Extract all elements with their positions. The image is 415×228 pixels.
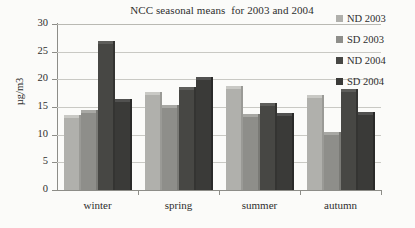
bar-group [145, 24, 213, 190]
bar [115, 99, 132, 190]
legend-item: ND 2004 [336, 50, 414, 71]
bar-group [226, 24, 294, 190]
y-tick-label: 10 [18, 129, 48, 140]
legend-item: SD 2003 [336, 29, 414, 50]
legend-swatch-icon [336, 57, 343, 64]
bar-side-face [373, 112, 375, 190]
legend-item: ND 2003 [336, 8, 414, 29]
plot-area [57, 24, 381, 190]
chart-title: NCC seasonal means for 2003 and 2004 [104, 4, 340, 16]
bar-side-face [292, 113, 294, 190]
bar [358, 112, 375, 190]
bar [307, 95, 324, 190]
bar [277, 113, 294, 190]
legend-swatch-icon [336, 36, 343, 43]
bar [324, 132, 341, 190]
x-tick-mark [219, 190, 220, 195]
x-tick-mark [300, 190, 301, 195]
y-axis-label: µg/m3 [14, 62, 25, 122]
x-category-label: spring [138, 199, 219, 211]
bar [64, 115, 81, 190]
y-tick-label: 0 [18, 184, 48, 195]
y-tick-label: 20 [18, 73, 48, 84]
x-category-label: autumn [300, 199, 381, 211]
x-category-label: winter [57, 199, 138, 211]
legend-swatch-icon [336, 78, 343, 85]
chart-figure: NCC seasonal means for 2003 and 2004 µg/… [0, 0, 415, 228]
x-category-label: summer [219, 199, 300, 211]
legend-label: ND 2004 [347, 55, 386, 66]
bar [243, 114, 260, 190]
bar [196, 77, 213, 190]
x-tick-mark [381, 190, 382, 195]
y-tick-label: 30 [18, 18, 48, 29]
bar [226, 86, 243, 190]
y-tick-label: 25 [18, 46, 48, 57]
bar-side-face [211, 77, 213, 190]
bar [145, 92, 162, 190]
y-tick-label: 15 [18, 101, 48, 112]
chart-legend: ND 2003SD 2003ND 2004SD 2004 [336, 8, 414, 92]
bar-side-face [130, 99, 132, 190]
legend-item: SD 2004 [336, 71, 414, 92]
y-tick-label: 5 [18, 156, 48, 167]
legend-label: ND 2003 [347, 13, 386, 24]
bar [260, 103, 277, 190]
bar-group [64, 24, 132, 190]
bar [98, 41, 115, 190]
x-tick-mark [138, 190, 139, 195]
legend-swatch-icon [336, 15, 343, 22]
legend-label: SD 2003 [347, 34, 384, 45]
y-tick-mark [52, 190, 57, 191]
bar [162, 105, 179, 190]
legend-label: SD 2004 [347, 76, 384, 87]
bar [341, 89, 358, 190]
bar [179, 87, 196, 190]
bar [81, 110, 98, 190]
